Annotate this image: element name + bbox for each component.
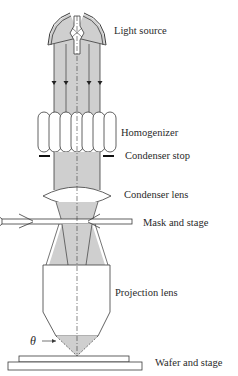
label-wafer-and-stage: Wafer and stage xyxy=(155,358,222,369)
theta-arrow xyxy=(42,339,56,343)
wafer-and-stage xyxy=(8,356,142,370)
label-mask-and-stage: Mask and stage xyxy=(143,218,208,229)
label-homogenizer: Homogenizer xyxy=(121,128,178,139)
lithography-diagram xyxy=(0,0,238,376)
theta-symbol: θ xyxy=(30,335,36,347)
label-condenser-lens: Condenser lens xyxy=(124,190,188,201)
projection-lens xyxy=(43,265,110,336)
label-projection-lens: Projection lens xyxy=(115,288,178,299)
label-light-source: Light source xyxy=(114,26,167,37)
label-condenser-stop: Condenser stop xyxy=(125,151,190,162)
